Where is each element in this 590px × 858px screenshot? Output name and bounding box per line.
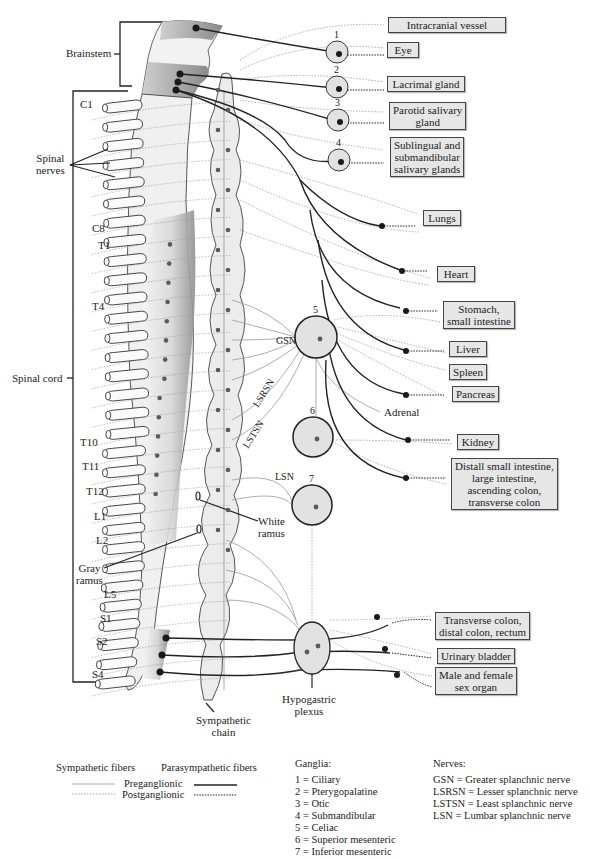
legend-nerve-item: LSRSN = Lesser splanchnic nerve bbox=[433, 786, 578, 798]
segment-label-c8: C8 bbox=[92, 222, 105, 234]
parasympathetic-preganglionic-fibers bbox=[160, 28, 406, 676]
ganglion-number: 5 bbox=[313, 304, 318, 315]
organ-pancreas: Pancreas bbox=[452, 386, 499, 402]
legend-postganglionic: Postganglionic bbox=[122, 789, 184, 801]
ganglion-number: 3 bbox=[335, 97, 340, 108]
organ-sex-organ: Male and female sex organ bbox=[435, 667, 517, 695]
nerve-label-lsn: LSN bbox=[275, 471, 294, 482]
organ-distal-small-intestine: Distall small intestine, large intestine… bbox=[451, 458, 558, 510]
legend-nerve-item: LSTSN = Least splanchnic nerve bbox=[433, 798, 578, 810]
label-sympathetic-chain: Sympathetic chain bbox=[196, 714, 251, 738]
segment-label-t11: T11 bbox=[82, 460, 99, 472]
ganglion-number: 7 bbox=[309, 473, 314, 484]
legend-sympathetic-header: Sympathetic fibers bbox=[56, 762, 135, 774]
legend-ganglion-item: 3 = Otic bbox=[295, 798, 396, 810]
ganglion-number: 6 bbox=[310, 405, 315, 416]
nerve-label-lsrsn: LSRSN bbox=[250, 377, 276, 409]
ganglia: 1234567 bbox=[292, 29, 350, 525]
segment-label-t4: T4 bbox=[92, 300, 105, 312]
organ-liver: Liver bbox=[449, 341, 487, 357]
label-spinal-nerves: Spinal nerves bbox=[36, 152, 65, 176]
organ-kidney: Kidney bbox=[457, 434, 499, 450]
label-gray-ramus: Gray ramus bbox=[76, 562, 103, 586]
organ-intracranial-vessel: Intracranial vessel bbox=[388, 17, 506, 33]
organ-eye: Eye bbox=[387, 42, 419, 58]
segment-label-t10: T10 bbox=[80, 436, 98, 448]
legend-ganglion-item: 4 = Submandibular bbox=[295, 810, 396, 822]
organ-spleen: Spleen bbox=[449, 364, 487, 380]
organ-heart: Heart bbox=[437, 266, 475, 282]
legend-nerves: Nerves: GSN = Greater splanchnic nerveLS… bbox=[433, 758, 578, 822]
legend-nerve-item: GSN = Greater splanchnic nerve bbox=[433, 774, 578, 786]
legend-ganglia-header: Ganglia: bbox=[295, 758, 396, 770]
legend-ganglion-item: 2 = Pterygopalatine bbox=[295, 786, 396, 798]
organ-lacrimal-gland: Lacrimal gland bbox=[387, 76, 465, 92]
nerve-label-lstsn: LSTSN bbox=[240, 418, 266, 450]
legend-ganglion-item: 7 = Inferior mesenteric bbox=[295, 846, 396, 858]
legend-ganglion-item: 6 = Superior mesenteric bbox=[295, 834, 396, 846]
sympathetic-chain bbox=[198, 73, 245, 700]
label-brainstem: Brainstem bbox=[66, 47, 111, 59]
organ-transverse-colon-rectum: Transverse colon, distal colon, rectum bbox=[435, 612, 530, 640]
parasympathetic-terminal-ganglia bbox=[374, 223, 411, 678]
ganglion-number: 1 bbox=[334, 29, 339, 40]
legend-ganglia: Ganglia: 1 = Ciliary2 = Pterygopalatine3… bbox=[295, 758, 396, 858]
ganglion-5 bbox=[295, 316, 337, 358]
legend-parasympathetic-header: Parasympathetic fibers bbox=[161, 762, 257, 774]
ganglion-number: 4 bbox=[336, 137, 341, 148]
segment-label-t1: T1 bbox=[98, 239, 110, 251]
organ-stomach-small-intestine: Stomach, small intestine bbox=[443, 301, 515, 329]
ganglion-number: 2 bbox=[334, 64, 339, 75]
segment-label-t12: T12 bbox=[86, 485, 104, 497]
hypogastric-plexus bbox=[294, 622, 330, 688]
segment-label-s2: S2 bbox=[96, 635, 108, 647]
brainstem-shape bbox=[142, 21, 222, 98]
label-hypogastric-plexus: Hypogastric plexus bbox=[282, 693, 336, 717]
segment-label-s4: S4 bbox=[92, 668, 104, 680]
segment-label-c1: C1 bbox=[80, 98, 93, 110]
segment-label-l5: L5 bbox=[104, 588, 117, 600]
segment-label-l2: L2 bbox=[96, 534, 108, 546]
ganglion-7 bbox=[292, 485, 332, 525]
segment-label-l1: L1 bbox=[94, 510, 106, 522]
nerve-label-gsn: GSN bbox=[276, 335, 296, 346]
label-adrenal: Adrenal bbox=[384, 406, 419, 418]
organ-sublingual-submandibular: Sublingual and submandibular salivary gl… bbox=[390, 137, 464, 177]
segment-label-s1: S1 bbox=[100, 612, 112, 624]
label-white-ramus: White ramus bbox=[258, 515, 285, 539]
legend-ganglion-item: 1 = Ciliary bbox=[295, 774, 396, 786]
organ-parotid-salivary-gland: Parotid salivary gland bbox=[389, 102, 466, 130]
legend-nerve-item: LSN = Lumbar splanchnic nerve bbox=[433, 810, 578, 822]
legend-ganglion-item: 5 = Celiac bbox=[295, 822, 396, 834]
ganglion-6 bbox=[293, 417, 333, 457]
organ-urinary-bladder: Urinary bladder bbox=[437, 648, 515, 664]
legend-nerves-header: Nerves: bbox=[433, 758, 578, 770]
label-spinal-cord: Spinal cord bbox=[12, 372, 62, 384]
organ-lungs: Lungs bbox=[423, 210, 461, 226]
